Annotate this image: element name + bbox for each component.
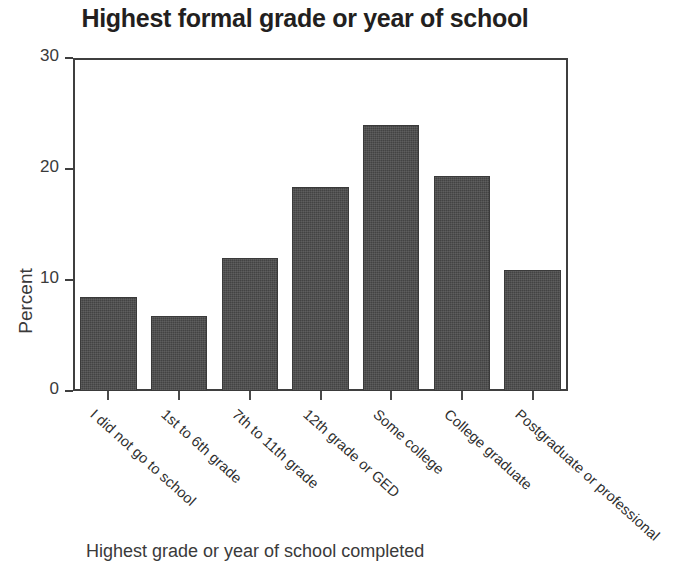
- y-tick-mark: [65, 168, 73, 170]
- x-axis-label: Highest grade or year of school complete…: [86, 541, 424, 562]
- y-tick-mark: [65, 390, 73, 392]
- bar-series: [73, 58, 568, 391]
- x-tick-mark: [178, 391, 180, 400]
- bar: [363, 125, 420, 391]
- x-axis-category-label: Postgraduate or professional: [512, 406, 663, 544]
- x-tick-mark: [107, 391, 109, 400]
- bar: [80, 297, 137, 391]
- y-tick-label: 0: [50, 379, 59, 399]
- y-tick-label: 20: [40, 157, 59, 177]
- bar: [434, 176, 491, 391]
- bar: [504, 270, 561, 391]
- x-tick-mark: [249, 391, 251, 400]
- x-tick-mark: [390, 391, 392, 400]
- x-axis-ticks: [73, 391, 568, 403]
- y-tick-label: 30: [40, 46, 59, 66]
- chart-title: Highest formal grade or year of school: [0, 4, 610, 33]
- x-tick-mark: [461, 391, 463, 400]
- bar: [292, 187, 349, 391]
- y-tick-mark: [65, 279, 73, 281]
- bar-chart-figure: Highest formal grade or year of school P…: [0, 0, 680, 574]
- bar: [151, 316, 208, 391]
- y-tick-mark: [65, 57, 73, 59]
- x-tick-mark: [532, 391, 534, 400]
- x-axis-category-label: Some college: [370, 406, 447, 477]
- y-tick-label: 10: [40, 268, 59, 288]
- y-axis-label: Percent: [15, 246, 37, 356]
- x-tick-mark: [320, 391, 322, 400]
- bar: [222, 258, 279, 391]
